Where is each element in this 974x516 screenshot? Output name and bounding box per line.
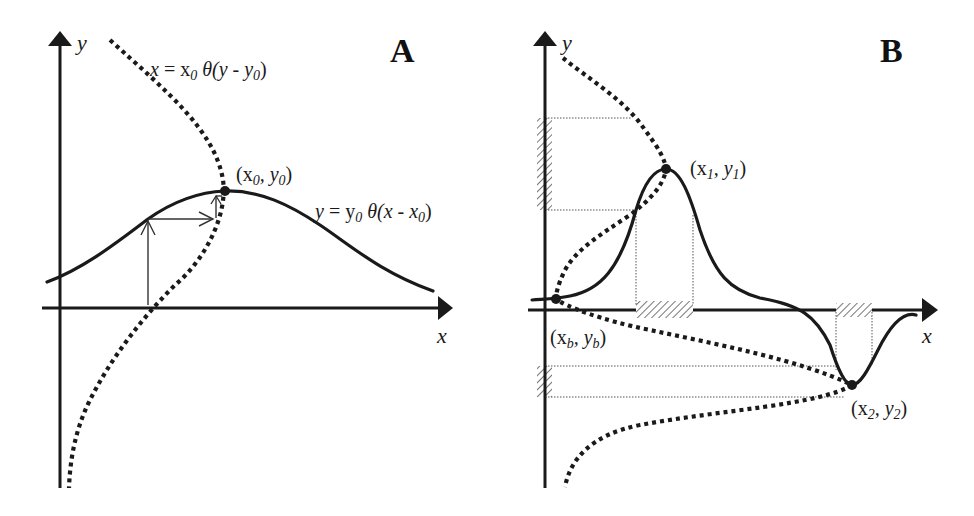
figure-canvas: y x A x = x0 θ(y - y0) y = y0 θ(x - x0) … [0,0,974,516]
b-y-axis-label: y [560,30,572,55]
b-x-interval-hatch-2 [836,303,872,317]
a-fixed-point-marker [220,186,230,196]
a-inverse-equation: x = x0 θ(y - y0) [149,58,267,83]
b-point-2-marker [847,380,857,390]
panel-b: y x B (x1, y1) (xb, yb) (x2, y2) [528,30,938,488]
a-y-axis-arrow-icon [48,31,72,46]
a-x-axis-arrow-icon [438,296,453,320]
panel-a-letter: A [390,32,415,69]
b-x-interval-hatch-1 [636,301,693,318]
b-point-1-label: (x1, y1) [690,157,746,182]
a-fixed-point-label: (x0, y0) [236,163,292,188]
b-point-b-marker [551,294,561,304]
a-y-axis-label: y [75,30,87,55]
b-y-axis-arrow-icon [533,31,557,46]
b-point-b-label: (xb, yb) [550,326,606,351]
b-inverse-curve [556,58,852,487]
a-x-axis-label: x [436,323,447,348]
b-forward-curve [532,169,916,385]
b-point-2-label: (x2, y2) [851,397,907,422]
panel-b-letter: B [880,32,903,69]
a-inverse-curve [69,40,224,488]
b-x-axis-arrow-icon [922,298,938,322]
panel-a: y x A x = x0 θ(y - y0) y = y0 θ(x - x0) … [42,30,453,488]
b-x-axis-label: x [921,323,932,348]
b-point-1-marker [661,164,671,174]
a-forward-equation: y = y0 θ(x - x0) [313,200,432,225]
